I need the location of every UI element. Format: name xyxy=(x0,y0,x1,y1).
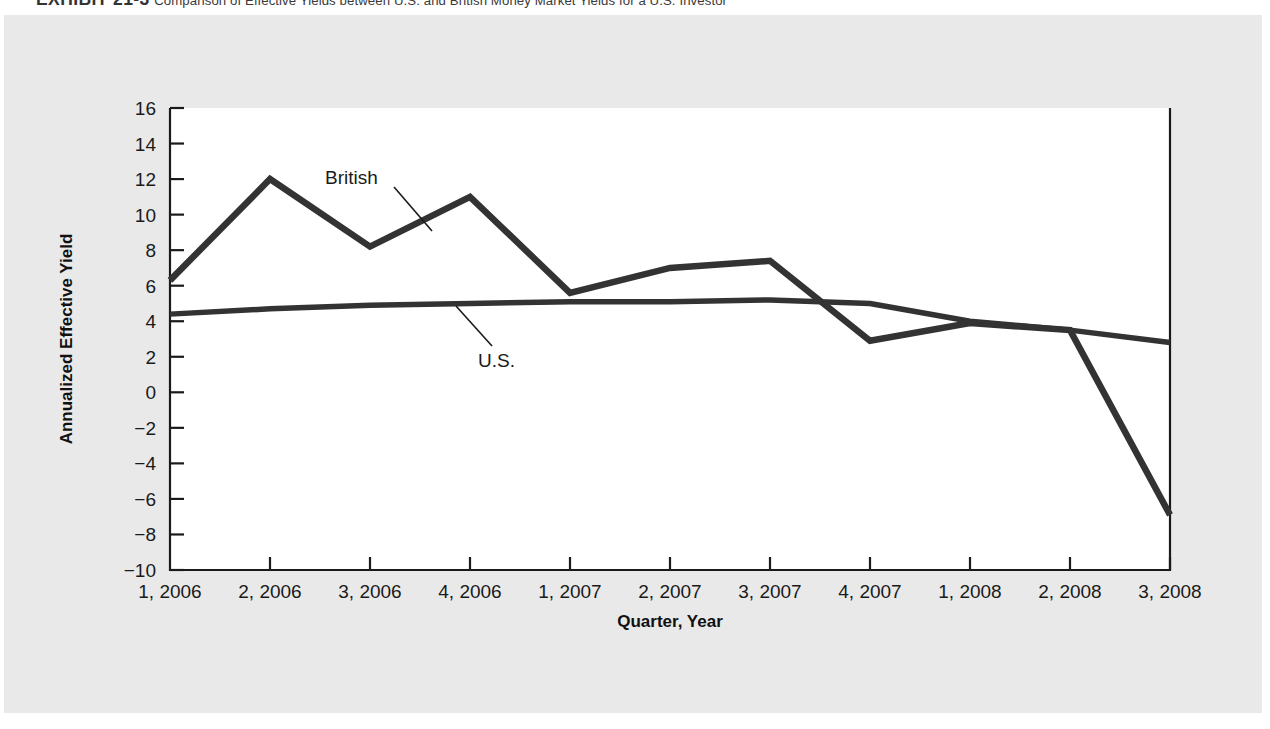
x-tick-label: 2, 2008 xyxy=(1038,581,1101,602)
x-tick-label: 4, 2007 xyxy=(838,581,901,602)
y-tick-label: 16 xyxy=(135,98,156,119)
y-tick-label: −10 xyxy=(124,560,156,581)
x-tick-label: 1, 2008 xyxy=(938,581,1001,602)
line-chart: 1614121086420−2−4−6−8−10 1, 20062, 20063… xyxy=(0,0,1270,729)
y-tick-label: 6 xyxy=(145,276,156,297)
y-tick-label: 12 xyxy=(135,169,156,190)
figure-container: EXHIBIT 21-3 Comparison of Effective Yie… xyxy=(0,0,1270,729)
plot-area-background xyxy=(170,108,1170,570)
y-tick-label: 8 xyxy=(145,240,156,261)
y-axis-title: Annualized Effective Yield xyxy=(57,234,76,445)
x-tick-label: 3, 2007 xyxy=(738,581,801,602)
x-axis-tick-labels: 1, 20062, 20063, 20064, 20061, 20072, 20… xyxy=(138,581,1201,602)
y-tick-label: 0 xyxy=(145,382,156,403)
y-tick-label: 10 xyxy=(135,205,156,226)
y-tick-label: 4 xyxy=(145,311,156,332)
x-tick-label: 1, 2007 xyxy=(538,581,601,602)
x-tick-label: 2, 2006 xyxy=(238,581,301,602)
x-tick-label: 4, 2006 xyxy=(438,581,501,602)
y-tick-label: −4 xyxy=(134,453,156,474)
x-tick-label: 3, 2006 xyxy=(338,581,401,602)
y-tick-label: −6 xyxy=(134,489,156,510)
series-annotation-us: U.S. xyxy=(478,350,515,371)
y-tick-label: −8 xyxy=(134,524,156,545)
x-axis-title: Quarter, Year xyxy=(617,612,723,631)
y-tick-label: −2 xyxy=(134,418,156,439)
y-tick-label: 2 xyxy=(145,347,156,368)
series-annotation-british: British xyxy=(325,167,378,188)
x-tick-label: 3, 2008 xyxy=(1138,581,1201,602)
x-tick-label: 1, 2006 xyxy=(138,581,201,602)
y-axis-tick-labels: 1614121086420−2−4−6−8−10 xyxy=(124,98,157,581)
y-tick-label: 14 xyxy=(135,134,157,155)
x-tick-label: 2, 2007 xyxy=(638,581,701,602)
